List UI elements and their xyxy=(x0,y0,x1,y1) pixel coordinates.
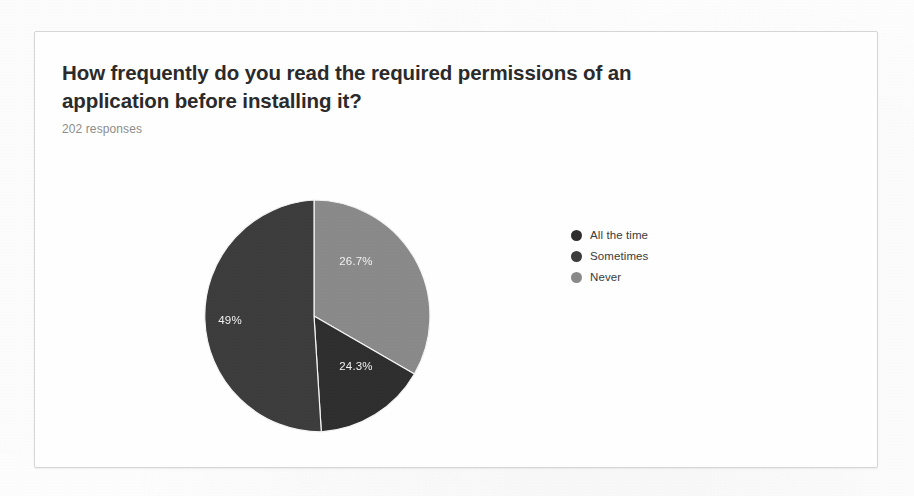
pie-chart-svg: 26.7% 24.3% 49% xyxy=(197,199,431,433)
legend-item-never[interactable]: Never xyxy=(571,268,761,287)
legend-swatch-icon xyxy=(571,272,582,283)
legend-item-label: All the time xyxy=(590,229,648,242)
legend-item-label: Sometimes xyxy=(590,250,648,263)
chart-area: 26.7% 24.3% 49% All the time Sometimes N… xyxy=(35,162,879,462)
pie-label-never: 26.7% xyxy=(339,255,373,267)
chart-legend: All the time Sometimes Never xyxy=(571,226,761,289)
card-header: How frequently do you read the required … xyxy=(62,59,662,137)
pie-label-sometimes: 49% xyxy=(218,314,242,326)
legend-item-sometimes[interactable]: Sometimes xyxy=(571,247,761,266)
pie-label-all-the-time: 24.3% xyxy=(339,360,373,372)
legend-item-label: Never xyxy=(590,271,621,284)
legend-item-all-the-time[interactable]: All the time xyxy=(571,226,761,245)
page-title: How frequently do you read the required … xyxy=(62,59,662,115)
survey-result-card: How frequently do you read the required … xyxy=(34,31,878,468)
legend-swatch-icon xyxy=(571,251,582,262)
legend-swatch-icon xyxy=(571,230,582,241)
pie-chart: 26.7% 24.3% 49% xyxy=(197,199,431,433)
response-count-label: 202 responses xyxy=(62,122,662,137)
